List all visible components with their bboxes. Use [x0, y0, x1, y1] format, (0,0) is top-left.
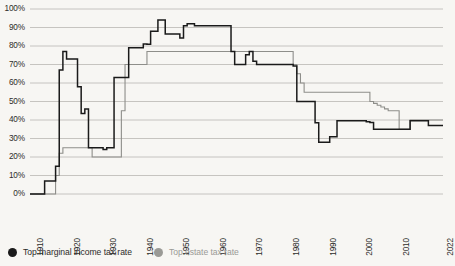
legend-swatch-icon — [154, 248, 163, 257]
legend-swatch-icon — [8, 248, 17, 257]
y-axis-tick-label: 90% — [0, 24, 29, 32]
x-axis-tick-label: 1990 — [330, 238, 338, 256]
plot-svg — [0, 0, 450, 210]
gridlines — [30, 9, 443, 194]
legend-item[interactable]: Top marginal income tax rate — [8, 247, 132, 257]
y-axis-tick-label: 70% — [0, 61, 29, 69]
series-line-estate-tax — [30, 52, 443, 194]
y-axis-tick-label: 50% — [0, 98, 29, 106]
x-axis-tick-label: 2022 — [447, 238, 455, 256]
y-axis-tick-label: 20% — [0, 153, 29, 161]
y-axis: 0%10%20%30%40%50%60%70%80%90%100% — [0, 0, 29, 210]
y-axis-tick-label: 30% — [0, 135, 29, 143]
plot-area — [0, 0, 450, 210]
legend-item[interactable]: Top estate tax rate — [154, 247, 239, 257]
y-axis-tick-label: 40% — [0, 116, 29, 124]
x-axis: 1910192019301940195019601970198019902000… — [0, 196, 450, 244]
y-axis-tick-label: 60% — [0, 79, 29, 87]
legend-label: Top marginal income tax rate — [23, 247, 132, 257]
x-axis-tick-label: 2000 — [366, 238, 374, 256]
y-axis-tick-label: 10% — [0, 172, 29, 180]
y-axis-tick-label: 100% — [0, 5, 29, 13]
legend-label: Top estate tax rate — [169, 247, 239, 257]
legend: Top marginal income tax rateTop estate t… — [8, 244, 261, 260]
x-axis-tick-label: 2010 — [403, 238, 411, 256]
x-axis-tick-label: 1980 — [293, 238, 301, 256]
y-axis-tick-label: 80% — [0, 42, 29, 50]
